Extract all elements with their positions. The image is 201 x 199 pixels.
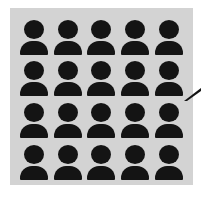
person-icon — [20, 61, 48, 97]
person-icon — [54, 103, 82, 139]
person-icon — [121, 20, 149, 56]
person-icon — [54, 61, 82, 97]
person-body — [54, 41, 82, 55]
person-head — [24, 103, 44, 122]
person-icon — [121, 145, 149, 181]
person-icon — [54, 145, 82, 181]
person-body — [54, 166, 82, 180]
person-head — [125, 61, 145, 80]
person-head — [125, 103, 145, 122]
person-icon — [54, 20, 82, 56]
person-icon — [121, 61, 149, 97]
person-icon — [87, 61, 115, 97]
person-icon — [155, 20, 183, 56]
person-body — [155, 41, 183, 55]
person-head — [58, 103, 78, 122]
person-head — [91, 61, 111, 80]
person-body — [87, 166, 115, 180]
person-head — [91, 145, 111, 164]
person-icon — [87, 103, 115, 139]
person-icon — [121, 103, 149, 139]
person-head — [58, 20, 78, 39]
person-body — [155, 82, 183, 96]
person-body — [87, 124, 115, 138]
person-head — [58, 145, 78, 164]
people-grid-panel — [10, 8, 193, 185]
person-body — [20, 82, 48, 96]
callout-pointer-icon — [183, 86, 201, 102]
person-icon — [20, 145, 48, 181]
person-head — [58, 61, 78, 80]
person-head — [159, 61, 179, 80]
person-head — [91, 103, 111, 122]
person-head — [125, 145, 145, 164]
person-icon — [20, 103, 48, 139]
person-body — [54, 124, 82, 138]
person-icon — [155, 61, 183, 97]
figure-canvas — [0, 0, 201, 199]
people-grid — [10, 8, 193, 185]
person-body — [20, 41, 48, 55]
person-body — [20, 166, 48, 180]
person-body — [121, 41, 149, 55]
person-head — [24, 145, 44, 164]
person-icon — [155, 145, 183, 181]
person-icon — [20, 20, 48, 56]
person-head — [24, 20, 44, 39]
person-icon — [155, 103, 183, 139]
person-body — [155, 166, 183, 180]
person-body — [87, 82, 115, 96]
person-body — [155, 124, 183, 138]
person-head — [125, 20, 145, 39]
person-body — [121, 124, 149, 138]
person-head — [24, 61, 44, 80]
person-icon — [87, 145, 115, 181]
person-body — [121, 82, 149, 96]
person-head — [159, 103, 179, 122]
person-body — [121, 166, 149, 180]
person-icon — [87, 20, 115, 56]
person-body — [54, 82, 82, 96]
person-head — [91, 20, 111, 39]
person-body — [87, 41, 115, 55]
person-head — [159, 145, 179, 164]
person-head — [159, 20, 179, 39]
person-body — [20, 124, 48, 138]
